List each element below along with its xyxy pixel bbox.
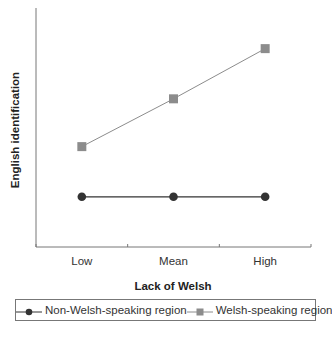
circle-marker-icon <box>261 193 270 202</box>
y-axis-title: English identification <box>9 72 21 188</box>
circle-marker-icon <box>78 193 87 202</box>
square-marker-icon <box>77 142 86 151</box>
legend-label: Welsh-speaking region <box>216 304 332 316</box>
circle-marker-icon <box>169 193 178 202</box>
legend: Non-Welsh-speaking region Welsh-speaking… <box>15 299 316 321</box>
square-marker-icon <box>169 94 178 103</box>
x-axis-title: Lack of Welsh <box>134 280 211 292</box>
legend-item-non-welsh: Non-Welsh-speaking region <box>16 304 187 316</box>
x-tick-label: Low <box>71 255 93 267</box>
square-marker-icon <box>261 44 270 53</box>
x-tick-label: Mean <box>159 255 188 267</box>
x-tick-label: High <box>253 255 277 267</box>
square-marker-icon <box>187 306 213 314</box>
series-group <box>77 44 269 201</box>
legend-label: Non-Welsh-speaking region <box>45 304 187 316</box>
legend-item-welsh: Welsh-speaking region <box>187 304 332 316</box>
x-axis-tick-labels: LowMeanHigh <box>71 255 277 267</box>
circle-marker-icon <box>16 306 42 314</box>
